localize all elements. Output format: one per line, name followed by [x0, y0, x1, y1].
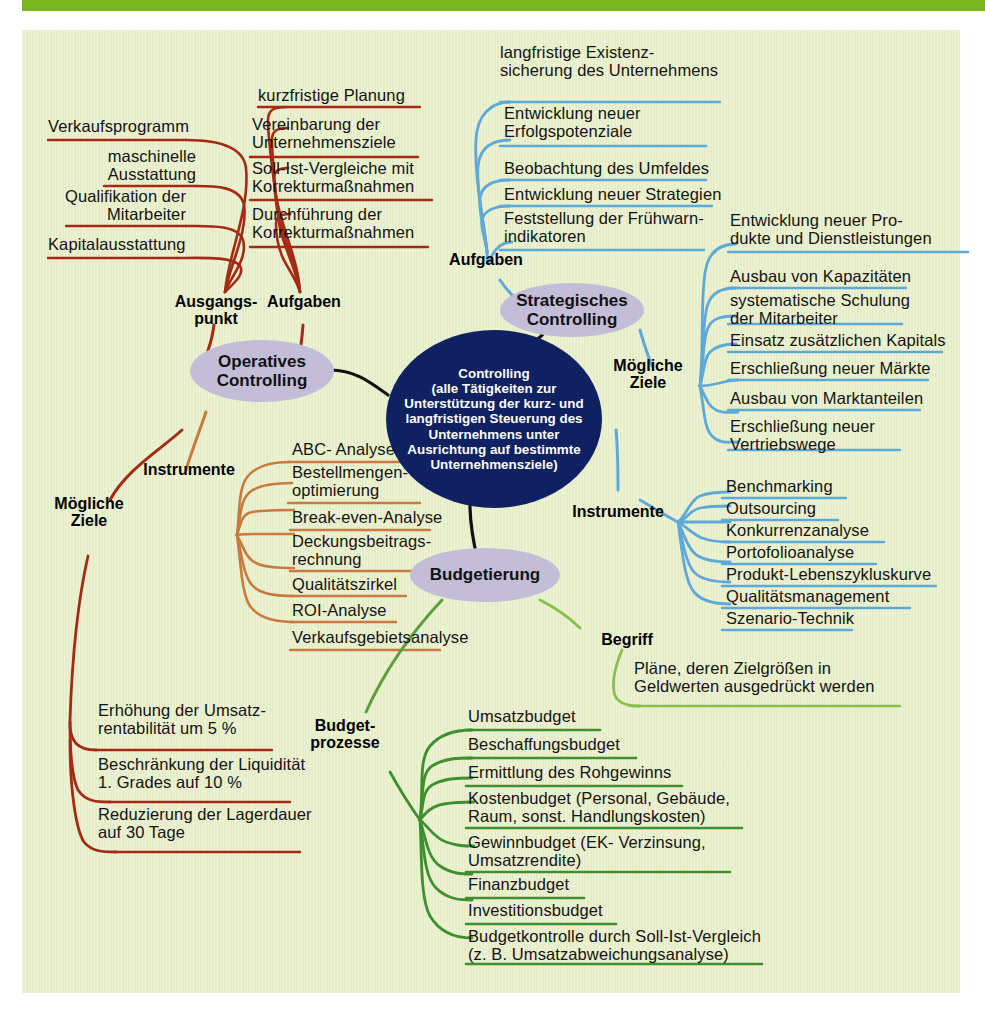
leaf-aufgaben-op-2: Soll-Ist-Vergleiche mit Korrekturmaßnahm…: [252, 160, 414, 196]
leaf-ausgangspunkt-1: maschinelle Ausstattung: [56, 148, 196, 184]
leaf-instr-op-6: Verkaufsgebietsanalyse: [292, 629, 468, 647]
leaf-ziele-strat-3: Einsatz zusätzlichen Kapitals: [730, 332, 946, 350]
leaf-aufgaben-op-3: Durchführung der Korrekturmaßnahmen: [252, 206, 414, 242]
leaf-aufgaben-op-1: Vereinbarung der Unternehmensziele: [252, 116, 396, 152]
mindmap-page: Controlling (alle Tätigkeiten zur Unters…: [0, 0, 985, 1009]
label-instrumente-operativ: Instrumente: [130, 462, 248, 479]
label-aufgaben-strategisch: Aufgaben: [428, 252, 544, 269]
leaf-ziele-op-0: Erhöhung der Umsatz- rentabilität um 5 %: [98, 702, 266, 738]
leaf-instr-op-2: Break-even-Analyse: [292, 509, 442, 527]
leaf-instr-strat-2: Konkurrenzanalyse: [726, 522, 869, 540]
leaf-budget-5: Finanzbudget: [468, 876, 569, 894]
leaf-instr-strat-5: Qualitätsmanagement: [726, 588, 889, 606]
leaf-ziele-op-2: Reduzierung der Lagerdauer auf 30 Tage: [98, 806, 312, 842]
leaf-instr-op-0: ABC- Analyse: [292, 441, 395, 459]
leaf-ziele-strat-2: systematische Schulung der Mitarbeiter: [730, 292, 910, 328]
node-budgetierung[interactable]: Budgetierung: [410, 548, 560, 602]
leaf-ziele-strat-1: Ausbau von Kapazitäten: [730, 268, 911, 286]
leaf-aufgaben-strat-4: Feststellung der Frühwarn- indikatoren: [504, 210, 704, 246]
leaf-instr-strat-6: Szenario-Technik: [726, 610, 854, 628]
leaf-budget-4: Gewinnbudget (EK- Verzinsung, Umsatzrend…: [468, 834, 706, 870]
leaf-ziele-op-1: Beschränkung der Liquidität 1. Grades au…: [98, 756, 305, 792]
leaf-budget-6: Investitionsbudget: [468, 902, 603, 920]
label-budgetprozesse: Budget- prozesse: [292, 718, 398, 752]
leaf-budget-2: Ermittlung des Rohgewinns: [468, 764, 671, 782]
leaf-ausgangspunkt-2: Qualifikation der Mitarbeiter: [46, 188, 186, 224]
leaf-budget-3: Kostenbudget (Personal, Gebäude, Raum, s…: [468, 790, 730, 826]
leaf-aufgaben-strat-3: Entwicklung neuer Strategien: [504, 186, 721, 204]
leaf-instr-op-4: Qualitätszirkel: [292, 576, 397, 594]
label-moegliche-ziele-strategisch: Mögliche Ziele: [594, 358, 702, 392]
leaf-aufgaben-strat-0: langfristige Existenz- sicherung des Unt…: [500, 44, 718, 80]
leaf-instr-op-5: ROI-Analyse: [292, 602, 387, 620]
leaf-instr-op-1: Bestellmengen- optimierung: [292, 464, 408, 500]
leaf-instr-strat-4: Produkt-Lebenszykluskurve: [726, 566, 931, 584]
node-operatives-controlling[interactable]: Operatives Controlling: [190, 340, 334, 402]
leaf-budget-7: Budgetkontrolle durch Soll-Ist-Vergleich…: [468, 928, 761, 964]
leaf-instr-op-3: Deckungsbeitrags- rechnung: [292, 533, 431, 569]
leaf-ziele-strat-5: Ausbau von Marktanteilen: [730, 390, 923, 408]
leaf-aufgaben-strat-1: Entwicklung neuer Erfolgspotenziale: [504, 105, 641, 141]
leaf-budget-1: Beschaffungsbudget: [468, 736, 620, 754]
leaf-ausgangspunkt-0: Verkaufsprogramm: [48, 118, 189, 136]
leaf-budget-0: Umsatzbudget: [468, 708, 576, 726]
node-strategisches-controlling[interactable]: Strategisches Controlling: [500, 283, 644, 337]
leaf-ausgangspunkt-3: Kapitalausstattung: [48, 236, 186, 254]
leaf-instr-strat-0: Benchmarking: [726, 478, 833, 496]
top-accent-bar: [22, 0, 985, 11]
leaf-ziele-strat-6: Erschließung neuer Vertriebswege: [730, 418, 875, 454]
leaf-instr-strat-1: Outsourcing: [726, 500, 816, 518]
leaf-aufgaben-op-0: kurzfristige Planung: [258, 87, 405, 105]
leaf-aufgaben-strat-2: Beobachtung des Umfeldes: [504, 160, 709, 178]
leaf-begriff-0: Pläne, deren Zielgrößen in Geldwerten au…: [634, 660, 874, 696]
center-node-controlling[interactable]: Controlling (alle Tätigkeiten zur Unters…: [386, 330, 602, 508]
label-begriff: Begriff: [584, 632, 670, 649]
leaf-instr-strat-3: Portofolioanalyse: [726, 544, 854, 562]
leaf-ziele-strat-4: Erschließung neuer Märkte: [730, 360, 931, 378]
label-aufgaben-operativ: Aufgaben: [246, 294, 362, 311]
leaf-ziele-strat-0: Entwicklung neuer Pro- dukte und Dienstl…: [730, 212, 932, 248]
label-instrumente-strategisch: Instrumente: [556, 504, 680, 521]
label-moegliche-ziele-operativ: Mögliche Ziele: [30, 496, 148, 530]
